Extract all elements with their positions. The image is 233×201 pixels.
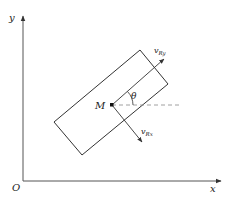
velocity-rx-arrow: [112, 105, 142, 142]
point-m-label: M: [94, 100, 106, 111]
velocity-ry-arrow: [112, 59, 164, 105]
velocity-rx-label: vRx: [141, 127, 154, 137]
rigid-body-rectangle: [54, 50, 168, 155]
x-axis-label: x: [210, 183, 216, 194]
y-axis-label: y: [8, 12, 15, 23]
angle-theta-label: θ: [131, 91, 137, 101]
origin-label: O: [12, 182, 20, 193]
point-m-marker: [110, 103, 114, 107]
diagram-canvas: y x O M θ vRy vRx: [0, 0, 233, 201]
velocity-ry-label: vRy: [154, 46, 167, 57]
